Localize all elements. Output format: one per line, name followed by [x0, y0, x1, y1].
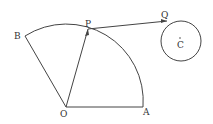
- arrowhead-OP-icon: [85, 29, 89, 36]
- label-P: P: [85, 19, 91, 29]
- segment-OB: [25, 36, 66, 107]
- label-O: O: [60, 109, 67, 119]
- label-Q: Q: [161, 10, 168, 20]
- vector-OP: [66, 29, 88, 107]
- center-dot-C: [179, 37, 181, 39]
- vector-PQ: [88, 21, 167, 29]
- label-C: C: [177, 40, 184, 50]
- label-B: B: [14, 31, 21, 41]
- sector-arc: [25, 24, 143, 107]
- geometry-diagram: B P Q C O A: [0, 0, 213, 124]
- label-A: A: [142, 107, 150, 117]
